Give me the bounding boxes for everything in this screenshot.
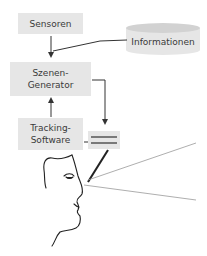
tracking-software-label-line2: Software xyxy=(31,134,71,146)
display-glasses xyxy=(88,131,120,149)
tracking-software-label-line1: Tracking- xyxy=(30,122,71,134)
face-profile-icon xyxy=(44,155,83,246)
view-ray-lower xyxy=(84,185,196,200)
display-arm xyxy=(88,150,108,182)
scene-generator-label-line2: Generator xyxy=(28,79,74,91)
information-to-generator-line xyxy=(53,40,127,51)
sensors-label: Sensoren xyxy=(30,18,72,30)
sensors-box: Sensoren xyxy=(18,13,83,34)
generator-to-display-arrow xyxy=(92,80,105,122)
scene-generator-label-line1: Szenen- xyxy=(32,67,68,79)
tracking-software-box: Tracking- Software xyxy=(18,118,83,150)
scene-generator-box: Szenen- Generator xyxy=(10,62,91,96)
information-label: Informationen xyxy=(126,37,200,47)
